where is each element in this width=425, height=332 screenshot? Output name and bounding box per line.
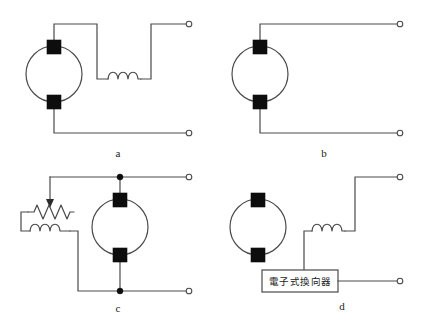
panel-a-terminal-bottom [186, 130, 192, 136]
panel-c-junction-bottom [117, 288, 123, 294]
panel-a-caption: a [116, 147, 121, 159]
panel-c-left-link [21, 212, 30, 231]
panel-d-brush-top [251, 193, 265, 207]
panel-c-brush-top [113, 193, 127, 207]
panel-d-terminal-bottom [397, 278, 403, 284]
panel-d: 電子式換向器 d [230, 174, 403, 312]
panel-b-terminal-top [397, 21, 403, 27]
panel-c-terminal-top [186, 174, 192, 180]
panel-a-brush-bottom [47, 95, 61, 109]
rheostat-icon [28, 205, 74, 219]
panel-d-armature [230, 199, 286, 255]
panel-b-top-wire [260, 24, 398, 41]
panel-a-bottom-wire [54, 107, 187, 133]
motor-circuit-diagram-set: a b [0, 0, 425, 332]
panel-b-caption: b [321, 147, 327, 159]
shunt-field-coil-icon [30, 224, 70, 231]
panel-c-terminal-bottom [186, 288, 192, 294]
panel-b-armature [232, 46, 288, 102]
electronic-commutator-label: 電子式換向器 [269, 276, 332, 287]
panel-d-caption: d [339, 300, 345, 312]
panel-a-armature [26, 46, 82, 102]
panel-b-brush-bottom [253, 95, 267, 109]
panel-c-junction-top [117, 174, 123, 180]
panel-d-coil-to-terminal-wire [345, 177, 398, 231]
panel-c-armature [92, 199, 148, 255]
panel-c: c [21, 174, 192, 314]
panel-d-brush-bottom [251, 248, 265, 262]
figure-root: a b [0, 0, 425, 332]
panel-a-terminal-top [186, 21, 192, 27]
panel-a-coil-to-terminal-wire [141, 24, 187, 79]
panel-a-brush-top [47, 40, 61, 54]
panel-b: b [232, 21, 403, 159]
panel-a: a [26, 21, 192, 159]
panel-d-terminal-top [397, 174, 403, 180]
panel-c-caption: c [116, 302, 121, 314]
panel-b-terminal-bottom [397, 130, 403, 136]
panel-d-field-coil-icon [312, 224, 345, 231]
panel-c-brush-bottom [113, 248, 127, 262]
panel-b-brush-top [253, 40, 267, 54]
series-field-coil-icon [108, 72, 141, 79]
panel-b-bottom-wire [260, 107, 398, 133]
panel-d-box-to-coil-wire [304, 231, 312, 270]
